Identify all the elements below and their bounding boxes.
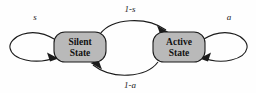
silent-self-loop-label: s <box>33 12 37 22</box>
silent-state-label-line2: State <box>70 48 91 58</box>
edge-silent-self-loop: s <box>10 12 59 62</box>
edge-silent-to-active: 1-s <box>100 4 169 35</box>
state-diagram-canvas: s a 1-s 1-a Silent State Act <box>0 0 256 93</box>
active-to-silent-label: 1-a <box>124 80 136 90</box>
state-diagram: s a 1-s 1-a Silent State Act <box>0 0 256 93</box>
active-state-label-line2: State <box>169 48 190 58</box>
active-self-loop-label: a <box>227 12 232 22</box>
active-state-label-line1: Active <box>166 37 192 47</box>
silent-to-active-path <box>100 21 166 34</box>
node-silent-state[interactable]: Silent State <box>54 32 106 62</box>
node-active-state[interactable]: Active State <box>153 32 205 62</box>
edge-active-self-loop: a <box>200 12 248 62</box>
silent-state-label-line1: Silent <box>68 37 92 47</box>
edge-active-to-silent: 1-a <box>91 60 159 90</box>
silent-to-active-label: 1-s <box>125 4 136 14</box>
active-to-silent-path <box>93 62 158 75</box>
